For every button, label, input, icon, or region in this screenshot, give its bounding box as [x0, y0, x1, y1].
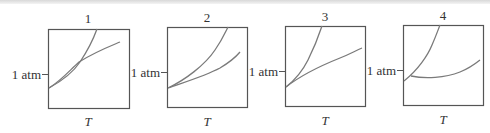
panel-1	[42, 29, 130, 109]
panel-3-steep-curve	[286, 26, 322, 87]
panel-3-shallow-curve	[286, 48, 362, 87]
panel-2-temperature-label: T	[203, 115, 210, 128]
phase-diagrams	[0, 0, 490, 133]
panel-1-frame	[49, 30, 130, 109]
panel-4-pressure-label: 1 atm	[367, 64, 396, 77]
panel-1-steep-curve	[49, 29, 97, 88]
panel-1-pressure-label: 1 atm	[12, 68, 41, 81]
panel-2-steep-curve	[168, 27, 228, 88]
panel-3	[279, 26, 366, 107]
panel-3-temperature-label: T	[321, 114, 328, 127]
panel-3-pressure-label: 1 atm	[249, 65, 278, 78]
panel-2-pressure-label: 1 atm	[131, 66, 160, 79]
panel-4	[397, 25, 484, 106]
panel-2	[161, 27, 248, 108]
panel-2-frame	[168, 28, 248, 108]
panel-3-frame	[286, 27, 366, 107]
panel-4-steep-curve	[404, 25, 440, 81]
panel-2-title: 2	[204, 11, 211, 24]
panel-3-title: 3	[322, 10, 329, 23]
panel-1-title: 1	[85, 12, 92, 25]
panel-1-temperature-label: T	[84, 115, 91, 128]
panel-4-temperature-label: T	[439, 113, 446, 126]
panel-4-title: 4	[440, 9, 447, 22]
